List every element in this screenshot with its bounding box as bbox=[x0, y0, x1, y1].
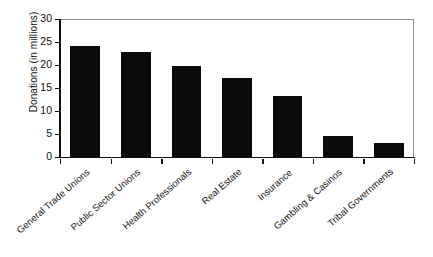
x-tick-mark bbox=[414, 159, 415, 164]
y-tick-label: 5 bbox=[46, 128, 52, 139]
x-axis-label: Real Estate bbox=[200, 167, 243, 206]
x-tick-mark bbox=[212, 159, 213, 164]
bar bbox=[70, 46, 100, 157]
bar-chart-figure: Donations (in millions) 051015202530 Gen… bbox=[0, 0, 433, 257]
y-tick-label: 20 bbox=[40, 59, 52, 70]
x-tick-mark bbox=[313, 159, 314, 164]
y-tick-mark bbox=[55, 19, 60, 20]
x-axis-label: Insurance bbox=[256, 167, 294, 202]
y-tick-mark bbox=[55, 42, 60, 43]
x-tick-mark bbox=[111, 159, 112, 164]
bar bbox=[222, 78, 252, 157]
bar bbox=[121, 52, 151, 157]
x-tick-mark bbox=[262, 159, 263, 164]
plot-area bbox=[60, 19, 414, 157]
y-tick-mark bbox=[55, 65, 60, 66]
y-tick-label: 0 bbox=[46, 151, 52, 162]
y-tick-label: 30 bbox=[40, 13, 52, 24]
x-axis-line bbox=[59, 157, 415, 159]
y-axis-title: Donations (in millions) bbox=[29, 0, 39, 127]
y-tick-label: 25 bbox=[40, 36, 52, 47]
y-tick-mark bbox=[55, 88, 60, 89]
y-tick-label: 10 bbox=[40, 105, 52, 116]
bar bbox=[273, 96, 303, 157]
x-tick-mark bbox=[60, 159, 61, 164]
y-tick-mark bbox=[55, 134, 60, 135]
bar bbox=[172, 66, 202, 157]
bar bbox=[323, 136, 353, 157]
x-tick-mark bbox=[161, 159, 162, 164]
y-tick-mark bbox=[55, 111, 60, 112]
bar bbox=[374, 143, 404, 157]
y-tick-label: 15 bbox=[40, 82, 52, 93]
x-tick-mark bbox=[363, 159, 364, 164]
